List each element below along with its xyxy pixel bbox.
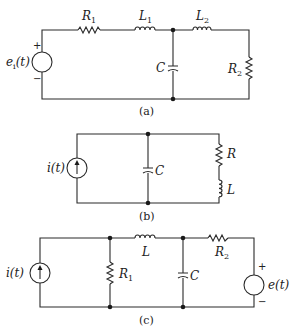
wire <box>42 72 249 99</box>
L2-label: L2 <box>195 9 209 25</box>
inductor-icon <box>193 27 211 30</box>
node-dot <box>171 28 176 33</box>
L1-label: L1 <box>138 9 152 25</box>
wire <box>40 238 135 263</box>
R1-label: R1 <box>118 267 133 283</box>
R-label: R <box>226 147 236 161</box>
resistor-icon <box>78 27 100 33</box>
wire <box>211 30 249 57</box>
minus-sign: − <box>258 296 266 307</box>
inductor-icon <box>135 235 155 238</box>
resistor-icon <box>107 262 113 284</box>
circuit-a: + − ei(t) R1 L1 C L2 R2 (a) <box>6 9 252 118</box>
voltage-source-icon <box>244 275 264 295</box>
plus-sign: + <box>258 261 266 272</box>
inductor-icon <box>135 27 155 30</box>
node-dot <box>146 132 151 137</box>
voltage-source-label: e(t) <box>268 278 290 292</box>
voltage-source-icon <box>32 52 52 72</box>
circuit-c: i(t) R1 L C R2 + − e(t) (c) <box>6 235 290 327</box>
node-dot <box>171 97 176 102</box>
capacitor-icon <box>143 168 153 173</box>
L-label: L <box>141 245 150 259</box>
circuit-b: i(t) C R L (b) <box>47 132 236 223</box>
wire <box>42 30 78 52</box>
resistor-icon <box>246 57 252 79</box>
caption-b: (b) <box>139 210 155 223</box>
inductor-icon <box>219 180 222 197</box>
wire <box>40 283 254 307</box>
resistor-icon <box>216 144 222 166</box>
C-label: C <box>155 164 164 178</box>
C-label: C <box>190 269 199 283</box>
node-dot <box>181 305 186 310</box>
current-source-label: i(t) <box>6 266 24 280</box>
source-label: ei(t) <box>6 55 30 71</box>
capacitor-icon <box>178 273 188 278</box>
plus-sign: + <box>33 40 41 51</box>
source-label: i(t) <box>47 161 65 175</box>
node-dot <box>108 305 113 310</box>
R2-label: R2 <box>214 245 229 261</box>
capacitor-icon <box>168 66 178 71</box>
R2-label: R2 <box>227 62 242 78</box>
R1-label: R1 <box>81 9 96 25</box>
C-label: C <box>156 61 165 75</box>
circuit-figure: + − ei(t) R1 L1 C L2 R2 (a) i(t) <box>0 0 301 335</box>
arrowhead-icon <box>38 265 43 270</box>
resistor-icon <box>208 235 228 241</box>
caption-c: (c) <box>139 314 154 327</box>
node-dot <box>181 236 186 241</box>
arrowhead-icon <box>75 160 80 165</box>
node-dot <box>146 201 151 206</box>
caption-a: (a) <box>139 105 154 118</box>
node-dot <box>108 236 113 241</box>
wire <box>228 238 254 275</box>
minus-sign: − <box>33 73 41 84</box>
L-label: L <box>226 183 235 197</box>
